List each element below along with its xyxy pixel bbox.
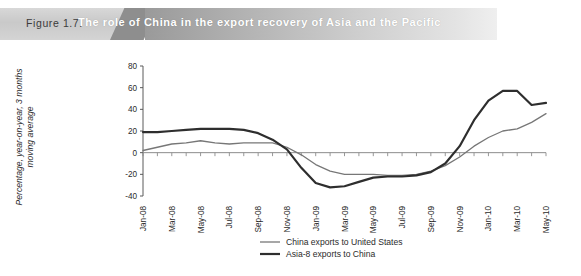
- y-tick-label: -40: [125, 192, 137, 201]
- x-tick-label: Nov-08: [283, 206, 292, 233]
- x-tick-label: May-08: [197, 206, 206, 234]
- x-tick-label: Sep-08: [254, 206, 263, 233]
- legend-item-label: China exports to United States: [286, 237, 403, 247]
- line-chart: -40-20020406080 Jan-08Mar-08May-08Jul-08…: [0, 46, 581, 276]
- x-tick-label: Mar-09: [341, 206, 350, 232]
- figure-banner: Figure 1.7. The role of China in the exp…: [0, 8, 497, 40]
- y-axis-title-line: moving average: [25, 106, 35, 167]
- y-axis-title: Percentage, year-on-year, 3 monthsmoving…: [14, 68, 35, 206]
- x-tick-label: Sep-09: [427, 206, 436, 233]
- x-axis: Jan-08Mar-08May-08Jul-08Sep-08Nov-08Jan-…: [139, 153, 551, 234]
- x-tick-label: May-09: [369, 206, 378, 234]
- chart-legend: China exports to United StatesAsia-8 exp…: [260, 237, 403, 259]
- y-tick-label: 60: [128, 84, 138, 93]
- figure-title-label: The role of China in the export recovery…: [78, 16, 441, 28]
- y-axis-title-line: Percentage, year-on-year, 3 months: [14, 68, 24, 206]
- chart-series-group: [143, 91, 546, 187]
- figure-number-label: Figure 1.7.: [26, 17, 83, 29]
- y-tick-label: 40: [128, 105, 138, 114]
- y-tick-label: 0: [132, 149, 137, 158]
- y-tick-label: 80: [128, 62, 138, 71]
- x-tick-label: Jul-09: [398, 206, 407, 229]
- x-tick-label: Mar-08: [168, 206, 177, 232]
- legend-item-label: Asia-8 exports to China: [286, 249, 376, 259]
- x-tick-label: Nov-09: [456, 206, 465, 233]
- series-line: [143, 114, 546, 176]
- chart-area: -40-20020406080 Jan-08Mar-08May-08Jul-08…: [0, 46, 581, 276]
- x-tick-label: Jan-10: [484, 206, 493, 231]
- y-tick-label: -20: [125, 170, 137, 179]
- x-tick-label: Jul-08: [225, 206, 234, 229]
- x-tick-label: Jan-08: [139, 206, 148, 231]
- x-tick-label: Mar-10: [513, 206, 522, 232]
- y-axis: -40-20020406080: [125, 62, 143, 201]
- y-tick-label: 20: [128, 127, 138, 136]
- x-tick-label: Jan-09: [312, 206, 321, 231]
- x-tick-label: May-10: [542, 206, 551, 234]
